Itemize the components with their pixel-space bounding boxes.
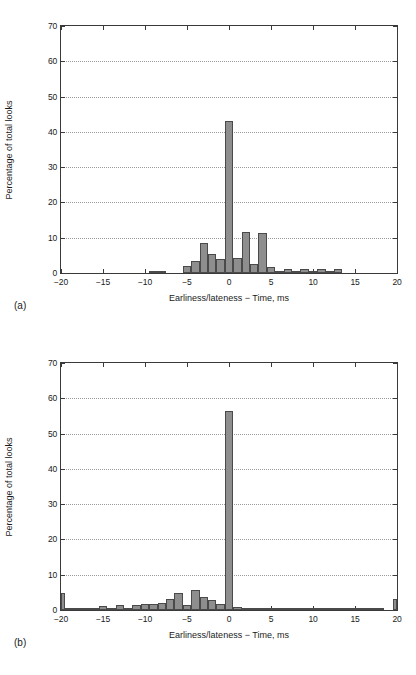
bar xyxy=(309,608,317,610)
bar xyxy=(233,607,241,610)
x-tick-mark-top xyxy=(397,363,398,367)
bar xyxy=(158,603,166,610)
y-tick-label-b: 50 xyxy=(48,429,57,439)
x-tick-label-b: −10 xyxy=(138,614,152,624)
bar xyxy=(359,608,367,610)
bar xyxy=(191,590,199,610)
bar xyxy=(183,266,191,273)
y-tick-label-a: 60 xyxy=(48,56,57,66)
bar xyxy=(65,608,73,610)
bar xyxy=(183,605,191,610)
bar xyxy=(309,271,317,273)
x-axis-label-a: Earliness/lateness − Time, ms xyxy=(169,293,289,303)
x-tick-mark-top xyxy=(397,26,398,30)
x-tick-mark xyxy=(397,269,398,273)
y-tick-mark xyxy=(61,610,65,611)
bar xyxy=(267,267,275,273)
x-axis-label-b: Earliness/lateness − Time, ms xyxy=(169,630,289,640)
y-tick-mark-right xyxy=(393,610,397,611)
bar-series-a xyxy=(61,26,397,273)
bar xyxy=(124,608,132,610)
bar xyxy=(326,608,334,610)
y-tick-label-b: 40 xyxy=(48,464,57,474)
x-tick-label-a: 5 xyxy=(269,277,274,287)
y-axis-label-a: Percentage of total looks xyxy=(4,100,14,199)
panel-tag-a: (a) xyxy=(14,300,26,311)
x-tick-label-b: −5 xyxy=(182,614,191,624)
bar xyxy=(208,254,216,273)
bar xyxy=(300,608,308,610)
bar xyxy=(208,600,216,610)
bar xyxy=(166,599,174,610)
bar xyxy=(284,269,292,273)
chart-panel-a: Percentage of total looks 01020304050607… xyxy=(0,0,416,330)
bar xyxy=(376,608,384,610)
bar xyxy=(275,271,283,273)
bar xyxy=(149,604,157,610)
bar xyxy=(149,271,157,273)
x-tick-label-a: 0 xyxy=(227,277,232,287)
y-axis-label-b: Percentage of total looks xyxy=(4,437,14,536)
x-tick-label-b: −15 xyxy=(96,614,110,624)
plot-area-b: 010203040506070−20−15−10−505101520 xyxy=(60,362,398,611)
x-tick-label-b: −20 xyxy=(54,614,68,624)
x-tick-label-b: 5 xyxy=(269,614,274,624)
plot-area-a: 010203040506070−20−15−10−505101520 xyxy=(60,25,398,274)
bar xyxy=(99,606,107,610)
bar xyxy=(242,608,250,610)
bar xyxy=(284,608,292,610)
bar xyxy=(317,269,325,273)
bar xyxy=(200,597,208,610)
bar xyxy=(334,269,342,273)
x-tick-label-b: 15 xyxy=(350,614,359,624)
bar xyxy=(225,121,233,273)
bar xyxy=(233,258,241,273)
bar xyxy=(216,259,224,273)
bar xyxy=(216,604,224,610)
bar xyxy=(292,271,300,273)
bar xyxy=(158,271,166,273)
y-tick-label-a: 40 xyxy=(48,127,57,137)
bar xyxy=(267,608,275,610)
y-tick-label-a: 50 xyxy=(48,92,57,102)
y-tick-label-a: 70 xyxy=(48,21,57,31)
x-tick-label-a: −5 xyxy=(182,277,191,287)
bar xyxy=(258,233,266,273)
bar-series-b xyxy=(61,363,397,610)
y-tick-mark xyxy=(61,273,65,274)
bar xyxy=(242,232,250,273)
bar xyxy=(107,608,115,610)
bar xyxy=(275,608,283,610)
bar xyxy=(317,608,325,610)
bar xyxy=(191,261,199,273)
x-tick-label-b: 0 xyxy=(227,614,232,624)
x-tick-label-a: 15 xyxy=(350,277,359,287)
panel-tag-b: (b) xyxy=(14,637,26,648)
bar xyxy=(300,269,308,273)
bar xyxy=(225,411,233,610)
bar xyxy=(174,593,182,610)
x-tick-label-b: 10 xyxy=(308,614,317,624)
x-tick-label-a: 10 xyxy=(308,277,317,287)
y-tick-label-b: 20 xyxy=(48,534,57,544)
x-tick-label-b: 20 xyxy=(392,614,401,624)
x-tick-label-a: −15 xyxy=(96,277,110,287)
bar xyxy=(132,605,140,610)
x-tick-label-a: −20 xyxy=(54,277,68,287)
bar xyxy=(90,608,98,610)
x-tick-label-a: −10 xyxy=(138,277,152,287)
x-tick-label-a: 20 xyxy=(392,277,401,287)
y-tick-mark-right xyxy=(393,273,397,274)
chart-panel-b: Percentage of total looks 01020304050607… xyxy=(0,337,416,667)
bar xyxy=(351,608,359,610)
y-tick-label-a: 20 xyxy=(48,197,57,207)
bar xyxy=(342,608,350,610)
bar xyxy=(393,599,397,610)
bar xyxy=(200,243,208,273)
y-tick-label-b: 10 xyxy=(48,570,57,580)
bar xyxy=(368,608,376,610)
bar xyxy=(250,608,258,610)
y-tick-label-a: 10 xyxy=(48,233,57,243)
y-tick-label-b: 60 xyxy=(48,393,57,403)
bar xyxy=(116,605,124,610)
